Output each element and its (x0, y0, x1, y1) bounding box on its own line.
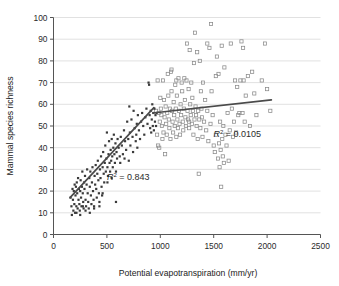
x-axis-title: Potential evapotranspiration (mm/yr) (119, 268, 258, 278)
svg-text:0: 0 (51, 241, 56, 251)
chart-figure: 0102030405060708090100 05001000150020002… (0, 0, 339, 286)
svg-text:500: 500 (100, 241, 114, 251)
svg-text:1500: 1500 (204, 241, 223, 251)
svg-text:2000: 2000 (258, 241, 277, 251)
y-axis-title: Mammal species richness (5, 77, 15, 176)
data-points-filled (69, 82, 157, 217)
svg-text:100: 100 (34, 13, 48, 23)
gridlines (54, 18, 321, 213)
svg-text:20: 20 (38, 186, 48, 196)
svg-text:80: 80 (38, 56, 48, 66)
r-squared-left: R2 = 0.843 (107, 172, 150, 182)
data-points-open-squares (154, 22, 271, 188)
svg-text:50: 50 (38, 121, 48, 131)
svg-text:1000: 1000 (151, 241, 170, 251)
r-squared-annotations: R2 = 0.843R2 = 0.0105 (107, 129, 261, 182)
svg-text:30: 30 (38, 164, 48, 174)
svg-text:70: 70 (38, 78, 48, 88)
y-tick-labels: 0102030405060708090100 (34, 13, 48, 240)
svg-text:60: 60 (38, 99, 48, 109)
svg-text:2500: 2500 (311, 241, 330, 251)
svg-text:0: 0 (43, 230, 48, 240)
svg-text:40: 40 (38, 143, 48, 153)
x-tick-labels: 05001000150020002500 (51, 241, 330, 251)
svg-text:90: 90 (38, 34, 48, 44)
svg-text:10: 10 (38, 208, 48, 218)
scatter-plot: 0102030405060708090100 05001000150020002… (0, 0, 339, 286)
